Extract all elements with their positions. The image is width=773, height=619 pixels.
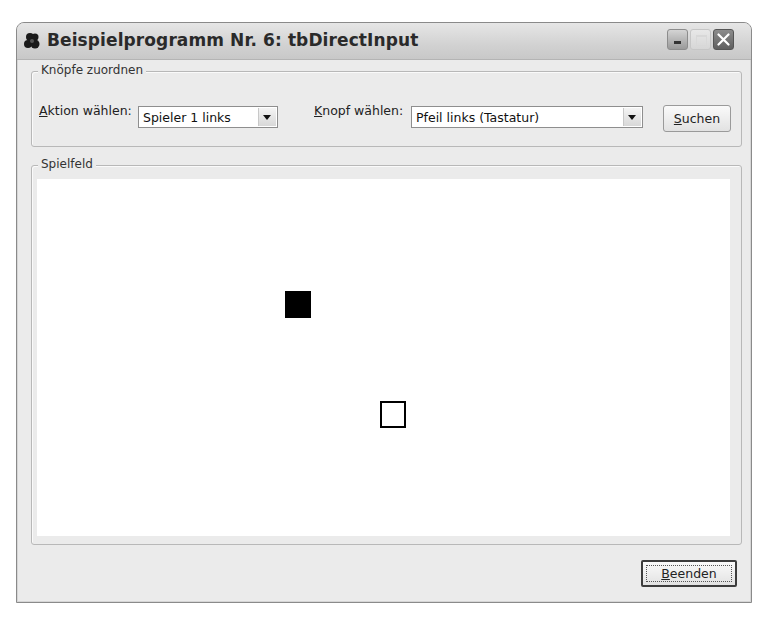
close-button[interactable] <box>713 29 734 50</box>
action-label: Aktion wählen: <box>39 103 132 118</box>
action-label-text: ktion wählen: <box>48 103 132 118</box>
playfield-canvas[interactable] <box>37 179 730 536</box>
main-window: Beispielprogramm Nr. 6: tbDirectInput Kn… <box>16 22 752 603</box>
button-select[interactable]: Pfeil links (Tastatur) <box>411 106 643 128</box>
search-button-label: uchen <box>682 111 720 126</box>
minimize-button[interactable] <box>667 29 688 50</box>
quit-button[interactable]: Beenden <box>641 560 737 587</box>
action-select-value: Spieler 1 links <box>143 110 231 125</box>
window-title: Beispielprogramm Nr. 6: tbDirectInput <box>47 30 418 50</box>
focus-rectangle <box>646 565 732 582</box>
player-2-square <box>380 401 406 428</box>
assign-buttons-group: Knöpfe zuordnen Aktion wählen: Spieler 1… <box>31 71 742 147</box>
chevron-down-icon[interactable] <box>258 108 276 126</box>
button-select-value: Pfeil links (Tastatur) <box>416 110 539 125</box>
search-button-mnemonic: S <box>674 111 682 126</box>
search-button[interactable]: Suchen <box>663 105 731 132</box>
button-label-text: nopf wählen: <box>322 103 403 118</box>
button-label-mnemonic: K <box>314 103 322 118</box>
title-bar[interactable]: Beispielprogramm Nr. 6: tbDirectInput <box>17 23 751 60</box>
player-1-square <box>285 291 311 318</box>
app-icon <box>24 32 42 50</box>
chevron-down-icon[interactable] <box>623 108 641 126</box>
maximize-button[interactable] <box>690 29 711 50</box>
button-label: Knopf wählen: <box>314 103 403 118</box>
assign-buttons-legend: Knöpfe zuordnen <box>38 63 146 77</box>
close-icon <box>717 33 730 46</box>
playfield-legend: Spielfeld <box>38 157 96 171</box>
action-label-mnemonic: A <box>39 103 48 118</box>
action-select[interactable]: Spieler 1 links <box>138 106 278 128</box>
